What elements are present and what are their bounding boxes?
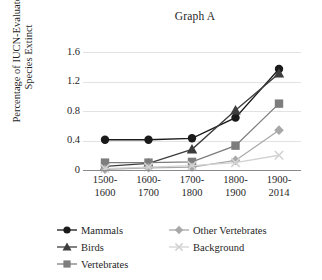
data-point <box>275 99 283 107</box>
legend-item-mammals[interactable]: Mammals <box>56 222 123 238</box>
x-tick-label-1600-1700: 1600-1700 <box>125 174 173 199</box>
y-axis-label-line1: Percentage of IUCN-Evaluated <box>11 0 22 123</box>
x-tick-bottom: 1800 <box>168 187 216 200</box>
chart-figure: Graph A Percentage of IUCN-Evaluated Spe… <box>0 0 322 280</box>
x-tick-bottom: 1600 <box>81 187 129 200</box>
x-tick-top: 1900- <box>255 174 303 187</box>
square-icon <box>56 257 78 271</box>
x-tick-bottom: 1700 <box>125 187 173 200</box>
legend-label: Other Vertebrates <box>190 225 267 236</box>
legend-item-birds[interactable]: Birds <box>56 239 104 255</box>
legend-label: Vertebrates <box>78 259 128 270</box>
circle-icon <box>56 223 78 237</box>
legend-label: Mammals <box>78 225 123 236</box>
x-tick-label-1500-1600: 1500-1600 <box>81 174 129 199</box>
x-tick-label-1700-1800: 1700-1800 <box>168 174 216 199</box>
data-point <box>101 136 109 144</box>
data-point <box>274 125 284 135</box>
y-tick-label-0.8: 0.8 <box>54 105 80 116</box>
series-plot <box>83 52 301 170</box>
data-point <box>144 136 152 144</box>
y-tick-label-0.4: 0.4 <box>54 134 80 145</box>
data-point <box>231 141 239 149</box>
cross-icon <box>168 240 190 254</box>
y-tick-label-1.2: 1.2 <box>54 75 80 86</box>
series-birds <box>100 68 285 170</box>
legend-label: Background <box>190 242 244 253</box>
series-line <box>105 104 279 163</box>
x-tick-top: 1500- <box>81 174 129 187</box>
y-tick-label-1.6: 1.6 <box>54 46 80 57</box>
x-tick-top: 1800- <box>212 174 260 187</box>
legend-item-background[interactable]: Background <box>168 239 244 255</box>
chart-legend: MammalsBirdsVertebratesOther Vertebrates… <box>56 222 306 274</box>
y-tick-label-0: 0 <box>54 164 80 175</box>
y-axis-label-line2: Species Extinct <box>23 24 34 89</box>
x-tick-top: 1700- <box>168 174 216 187</box>
x-tick-label-1900-2014: 1900-2014 <box>255 174 303 199</box>
y-axis-label: Percentage of IUCN-Evaluated Species Ext… <box>6 0 40 137</box>
x-tick-label-1800-1900: 1800-1900 <box>212 174 260 199</box>
triangle-icon <box>56 240 78 254</box>
series-vertebrates <box>101 99 283 166</box>
legend-item-other-vertebrates[interactable]: Other Vertebrates <box>168 222 267 238</box>
x-tick-bottom: 1900 <box>212 187 260 200</box>
x-tick-bottom: 2014 <box>255 187 303 200</box>
data-point <box>231 113 239 121</box>
diamond-icon <box>168 223 190 237</box>
series-mammals <box>101 65 283 144</box>
legend-label: Birds <box>78 242 104 253</box>
x-tick-top: 1600- <box>125 174 173 187</box>
legend-item-vertebrates[interactable]: Vertebrates <box>56 256 128 272</box>
chart-title: Graph A <box>75 10 315 22</box>
plot-area <box>83 52 301 170</box>
x-axis-tick-labels: 1500-16001600-17001700-18001800-19001900… <box>83 174 301 208</box>
data-point <box>188 134 196 142</box>
data-point <box>231 156 241 166</box>
x-axis-baseline <box>83 170 301 171</box>
